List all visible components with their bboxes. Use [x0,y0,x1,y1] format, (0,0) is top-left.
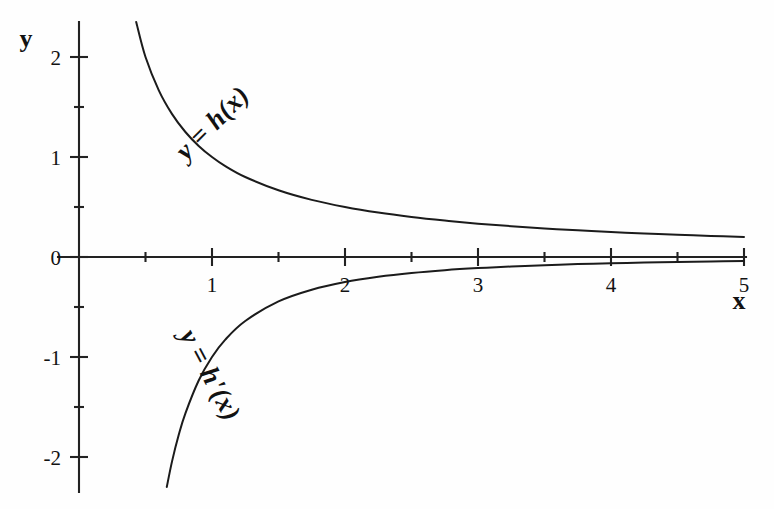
x-tick-label-3: 3 [473,273,484,297]
x-tick-label-1: 1 [207,273,218,297]
plot-background [0,0,774,509]
y-axis-label: y [20,24,33,53]
x-axis-label: x [733,286,746,315]
y-tick-label-0: 0 [51,246,62,270]
y-tick-label-neg2: -2 [44,446,62,470]
y-tick-label-2: 2 [51,46,62,70]
figure-canvas: 12345 210-1-2 y = h(x) y = h'(x) y x [0,0,774,509]
y-tick-label-1: 1 [51,146,62,170]
x-tick-label-2: 2 [340,273,351,297]
function-graph: 12345 210-1-2 y = h(x) y = h'(x) y x [0,0,774,509]
x-tick-label-4: 4 [606,273,617,297]
y-tick-label-neg1: -1 [44,346,62,370]
